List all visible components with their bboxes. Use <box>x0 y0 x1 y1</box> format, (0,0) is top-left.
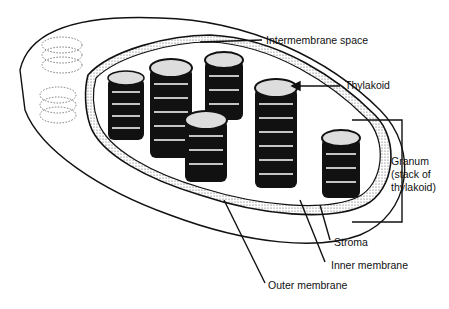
label-inner-membrane: Inner membrane <box>331 259 408 272</box>
granum-stack <box>322 130 360 198</box>
label-thylakoid: Thylakoid <box>345 79 390 92</box>
label-outer-membrane: Outer membrane <box>268 279 347 292</box>
label-granum-sub1: (stack of <box>391 168 431 181</box>
granum-stack <box>108 71 144 140</box>
granum-stack <box>255 79 297 188</box>
granum-stack <box>185 111 227 182</box>
label-granum-sub2: thylakoid) <box>391 181 436 194</box>
granum-stack <box>205 52 243 120</box>
label-stroma: Stroma <box>334 236 368 249</box>
label-intermembrane-space: Intermembrane space <box>266 34 368 47</box>
label-granum: Granum <box>391 155 429 168</box>
